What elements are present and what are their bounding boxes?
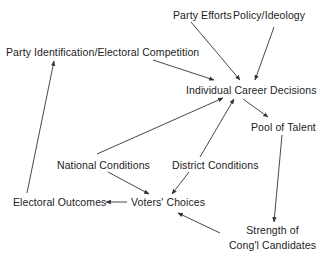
node-district-conditions: District Conditions (172, 159, 259, 171)
node-policy-ideology: Policy/Ideology (233, 9, 305, 21)
arrow-pool-to-strength (274, 135, 282, 222)
node-national-conditions: National Conditions (57, 159, 150, 171)
node-party-efforts: Party Efforts (173, 9, 232, 21)
node-voters-choices: Voters' Choices (131, 196, 205, 208)
arrow-policy-to-career (255, 27, 274, 80)
node-pool-of-talent: Pool of Talent (251, 121, 316, 133)
arrow-district-to-voters (172, 172, 189, 194)
node-party-identification: Party Identification/Electoral Competiti… (6, 46, 199, 58)
arrow-strength-to-voters (178, 213, 220, 233)
strength-line-1: Strength of (225, 224, 317, 236)
arrow-partyid-to-career (153, 60, 214, 80)
node-electoral-outcomes: Electoral Outcomes (13, 196, 106, 208)
arrow-national-to-voters (108, 172, 149, 194)
node-strength-of-candidates: Strength of Cong'l Candidates (225, 224, 317, 251)
arrow-career-to-pool (243, 99, 268, 117)
arrow-district-to-career (200, 99, 234, 157)
arrow-outcomes-to-partyid (27, 61, 54, 193)
causal-diagram: Party Efforts Policy/Ideology Party Iden… (0, 0, 317, 261)
strength-line-2: Cong'l Candidates (225, 239, 317, 251)
arrow-national-to-career (97, 98, 223, 154)
node-individual-career-decisions: Individual Career Decisions (186, 84, 317, 96)
